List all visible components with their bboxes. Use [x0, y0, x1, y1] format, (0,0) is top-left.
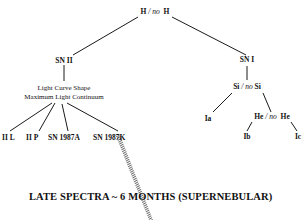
edge-root-sn2: [73, 17, 138, 55]
edge-criteria-iil: [10, 103, 52, 131]
edge-he-ib: [247, 122, 252, 131]
edge-si-ia: [213, 93, 232, 112]
leaf-ii-l: II L: [2, 134, 15, 142]
node-sn1: SN I: [240, 56, 254, 64]
root-h-right: H: [164, 7, 170, 16]
node-criteria: Light Curve Shape Maximum Light Continuu…: [24, 84, 103, 102]
edge-criteria-iip: [39, 103, 55, 131]
leaf-sn-1987k: SN 1987K: [93, 134, 125, 142]
si-right: Si: [255, 82, 261, 91]
supernova-classification-tree: H / no H SN II SN I Light Curve Shape Ma…: [0, 0, 305, 220]
node-si-no-si: Si / no Si: [233, 83, 261, 91]
edge-criteria-1987k: [67, 103, 118, 131]
edge-si-he: [263, 93, 271, 112]
node-sn2: SN II: [55, 57, 72, 65]
hatched-connector: [116, 135, 153, 220]
si-no: no: [245, 82, 253, 91]
leaf-ii-p: II P: [26, 134, 38, 142]
he-no: no: [269, 112, 277, 121]
he-left: He: [254, 112, 263, 121]
leaf-sn-1987a: SN 1987A: [48, 134, 80, 142]
criteria-line-2: Maximum Light Continuum: [24, 93, 103, 102]
edge-he-ic: [291, 122, 297, 131]
leaf-ic: Ic: [295, 133, 301, 141]
root-no: no: [152, 7, 160, 16]
criteria-line-1: Light Curve Shape: [24, 84, 103, 93]
late-spectra-title: LATE SPECTRA ~ 6 MONTHS (SUPERNEBULAR): [29, 191, 272, 202]
leaf-ib: Ib: [243, 133, 250, 141]
edge-root-sn1: [172, 17, 246, 55]
root-node-h-no-h: H / no H: [141, 8, 170, 16]
edge-criteria-1987a: [62, 104, 68, 131]
he-right: He: [281, 112, 290, 121]
node-he-no-he: He / no He: [254, 113, 289, 121]
leaf-ia: Ia: [205, 115, 212, 123]
tree-edges: [0, 0, 305, 220]
